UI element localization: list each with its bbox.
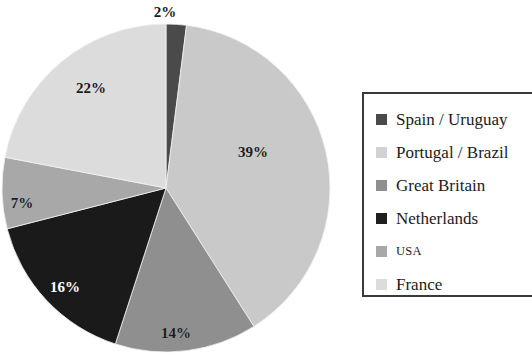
pie-svg	[0, 0, 340, 362]
chart-legend: Spain / UruguayPortugal / BrazilGreat Br…	[362, 92, 532, 297]
legend-item-label: France	[396, 276, 442, 293]
legend-swatch-icon	[376, 279, 387, 290]
legend-item-label: Netherlands	[396, 210, 478, 227]
pie-slice-label: 14%	[161, 325, 191, 342]
pie-slice-label: 2%	[154, 4, 177, 21]
pie-slice-label: 39%	[238, 144, 268, 161]
legend-swatch-icon	[376, 147, 387, 158]
legend-item[interactable]: Netherlands	[376, 202, 532, 235]
legend-item[interactable]: USA	[376, 235, 532, 268]
pie-chart: 2%39%14%16%7%22%	[0, 0, 340, 362]
legend-swatch-icon	[376, 213, 387, 224]
legend-item-label: USA	[396, 245, 422, 258]
legend-item-label: Great Britain	[396, 177, 485, 194]
legend-item[interactable]: France	[376, 268, 532, 301]
legend-swatch-icon	[376, 246, 387, 257]
legend-item[interactable]: Spain / Uruguay	[376, 103, 532, 136]
legend-swatch-icon	[376, 114, 387, 125]
legend-item-label: Portugal / Brazil	[396, 144, 508, 161]
pie-slice-label: 7%	[11, 195, 34, 212]
legend-item[interactable]: Portugal / Brazil	[376, 136, 532, 169]
legend-item-label: Spain / Uruguay	[396, 111, 507, 128]
legend-item[interactable]: Great Britain	[376, 169, 532, 202]
pie-slice-label: 16%	[50, 279, 80, 296]
legend-swatch-icon	[376, 180, 387, 191]
pie-slice-label: 22%	[76, 80, 106, 97]
